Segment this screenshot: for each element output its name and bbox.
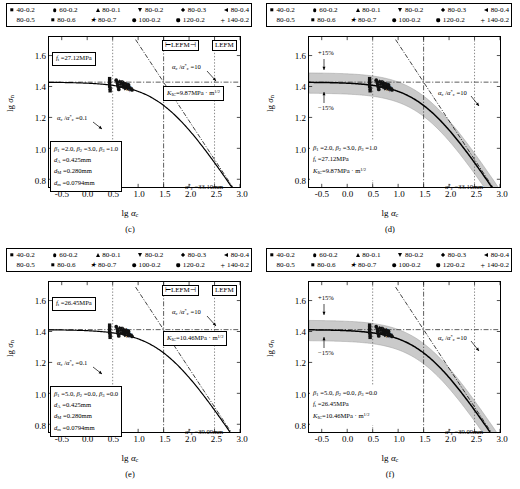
y-tick-label: 1.6: [295, 296, 306, 305]
legend-item-80-0.2[interactable]: 80-0.2: [397, 250, 423, 260]
legend-marker-triangle-left: [223, 252, 229, 258]
legend-item-60-0.2[interactable]: 60-0.2: [312, 250, 338, 260]
legend-marker-star: ★: [90, 17, 96, 23]
legend-item-80-0.4[interactable]: 80-0.4: [223, 250, 249, 260]
legend-item-60-0.2[interactable]: 60-0.2: [52, 250, 78, 260]
legend-marker-triangle-up: [355, 7, 361, 13]
legend-item-80-0.6[interactable]: 80-0.6: [50, 260, 76, 270]
x-tick-label: 0.5: [368, 435, 379, 444]
legend-item-label: 80-0.7: [358, 15, 376, 25]
legend-item-40-0.2[interactable]: 40-0.2: [9, 250, 35, 260]
legend-item-140-0.2[interactable]: +140-0.2: [480, 260, 509, 270]
legend-item-80-0.5[interactable]: 80-0.5: [9, 15, 35, 25]
data-point: [368, 336, 371, 339]
parameter-line: dm =0.0794mm: [54, 423, 118, 434]
legend-row: 40-0.260-0.280-0.180-0.280-0.380-0.4: [9, 250, 249, 260]
legend-row: 80-0.580-0.6★80-0.7100-0.2120-0.2+140-0.…: [9, 260, 249, 270]
legend-item-label: 40-0.2: [17, 250, 35, 260]
legend-marker-hexagon: [435, 17, 441, 23]
legend-item-label: 60-0.2: [59, 5, 77, 15]
legend-item-140-0.2[interactable]: +140-0.2: [220, 260, 249, 270]
x-tick-label: 1.5: [419, 435, 430, 444]
legend-item-80-0.2[interactable]: 80-0.2: [397, 5, 423, 15]
parameter-line: ft =26.45MPa: [313, 399, 377, 410]
legend-item-80-0.7[interactable]: ★80-0.7: [350, 15, 376, 25]
legend-marker-plus: +: [480, 262, 486, 268]
legend-item-40-0.2[interactable]: 40-0.2: [269, 250, 295, 260]
legend-item-80-0.5[interactable]: 80-0.5: [269, 260, 295, 270]
data-point: [377, 88, 381, 92]
legend-row: 40-0.260-0.280-0.180-0.280-0.380-0.4: [269, 250, 509, 260]
parameter-line: KIC=9.87MPa · m1/2: [313, 165, 377, 177]
parameter-line: dA =0.425mm: [54, 400, 118, 411]
legend-marker-circle: [391, 17, 397, 23]
legend-item-120-0.2[interactable]: 120-0.2: [435, 260, 464, 270]
legend-marker-square: [9, 7, 15, 13]
parameter-line: β1 =2.0, β2 =3.0, β3 =1.0: [313, 143, 377, 154]
x-tick-label: 0.5: [368, 190, 379, 199]
legend-item-80-0.6[interactable]: 80-0.6: [310, 260, 336, 270]
legend-item-100-0.2[interactable]: 100-0.2: [131, 15, 160, 25]
parameter-line: dA =0.425mm: [54, 155, 118, 166]
legend-item-40-0.2[interactable]: 40-0.2: [9, 5, 35, 15]
y-tick-label: 1.4: [295, 328, 306, 337]
legend-item-140-0.2[interactable]: +140-0.2: [220, 15, 249, 25]
parameters-box: β1 =5.0, β2 =0.0, β3 =0.0dA =0.425mmdM =…: [50, 386, 122, 437]
legend-item-100-0.2[interactable]: 100-0.2: [391, 260, 420, 270]
alpha-star-annotation: α*c =33.10mm: [185, 182, 223, 193]
legend-item-80-0.7[interactable]: ★80-0.7: [350, 260, 376, 270]
legend-item-label: 100-0.2: [399, 260, 421, 270]
band-lower-label: −15%: [318, 349, 334, 357]
legend-item-label: 80-0.5: [17, 260, 35, 270]
legend-item-80-0.1[interactable]: 80-0.1: [355, 5, 381, 15]
legend-marker-square: [50, 262, 56, 268]
legend-item-80-0.3[interactable]: 80-0.3: [180, 5, 206, 15]
legend-item-80-0.3[interactable]: 80-0.3: [440, 250, 466, 260]
y-tick-label: 0.8: [295, 177, 306, 186]
legend-item-100-0.2[interactable]: 100-0.2: [131, 260, 160, 270]
legend-item-label: 100-0.2: [139, 260, 161, 270]
legend-item-120-0.2[interactable]: 120-0.2: [435, 15, 464, 25]
legend-item-120-0.2[interactable]: 120-0.2: [175, 15, 204, 25]
legend-item-80-0.5[interactable]: 80-0.5: [269, 15, 295, 25]
series-legend: 40-0.260-0.280-0.180-0.280-0.380-0.480-0…: [6, 3, 252, 27]
legend-item-label: 80-0.7: [98, 15, 116, 25]
legend-item-40-0.2[interactable]: 40-0.2: [269, 5, 295, 15]
legend-item-80-0.7[interactable]: ★80-0.7: [90, 260, 116, 270]
legend-item-120-0.2[interactable]: 120-0.2: [175, 260, 204, 270]
legend-item-80-0.3[interactable]: 80-0.3: [180, 250, 206, 260]
legend-item-80-0.5[interactable]: 80-0.5: [9, 260, 35, 270]
legend-item-80-0.7[interactable]: ★80-0.7: [90, 15, 116, 25]
legend-item-80-0.1[interactable]: 80-0.1: [355, 250, 381, 260]
legend-item-label: 80-0.7: [98, 260, 116, 270]
y-tick-label: 1.4: [35, 328, 46, 337]
legend-item-label: 80-0.1: [362, 250, 380, 260]
x-tick-label: -0.5: [315, 435, 329, 444]
legend-item-80-0.3[interactable]: 80-0.3: [440, 5, 466, 15]
lefm-right-box: LEFM: [212, 40, 237, 51]
y-axis-label: lg σn: [265, 340, 275, 357]
ratio-low-annotation: αc /α*c =0.1: [57, 358, 87, 369]
legend-item-60-0.2[interactable]: 60-0.2: [312, 5, 338, 15]
band-lower-label: −15%: [318, 104, 334, 112]
legend-item-60-0.2[interactable]: 60-0.2: [52, 5, 78, 15]
y-axis-label: lg σn: [5, 340, 15, 357]
legend-item-80-0.2[interactable]: 80-0.2: [137, 250, 163, 260]
legend-marker-none: [9, 17, 15, 23]
legend-item-140-0.2[interactable]: +140-0.2: [480, 15, 509, 25]
legend-item-label: 140-0.2: [227, 260, 249, 270]
legend-item-80-0.4[interactable]: 80-0.4: [483, 250, 509, 260]
panel-label: (d): [260, 224, 520, 234]
legend-item-80-0.4[interactable]: 80-0.4: [223, 5, 249, 15]
legend-item-80-0.1[interactable]: 80-0.1: [95, 5, 121, 15]
ratio-high-annotation: αc /α*c =10: [438, 333, 467, 344]
legend-item-100-0.2[interactable]: 100-0.2: [391, 15, 420, 25]
legend-item-80-0.6[interactable]: 80-0.6: [310, 15, 336, 25]
legend-item-80-0.1[interactable]: 80-0.1: [95, 250, 121, 260]
legend-item-80-0.6[interactable]: 80-0.6: [50, 15, 76, 25]
y-tick-label: 0.8: [295, 422, 306, 431]
x-tick-label: 3.0: [236, 435, 247, 444]
legend-item-80-0.2[interactable]: 80-0.2: [137, 5, 163, 15]
legend-marker-circle: [312, 252, 318, 258]
legend-item-80-0.4[interactable]: 80-0.4: [483, 5, 509, 15]
